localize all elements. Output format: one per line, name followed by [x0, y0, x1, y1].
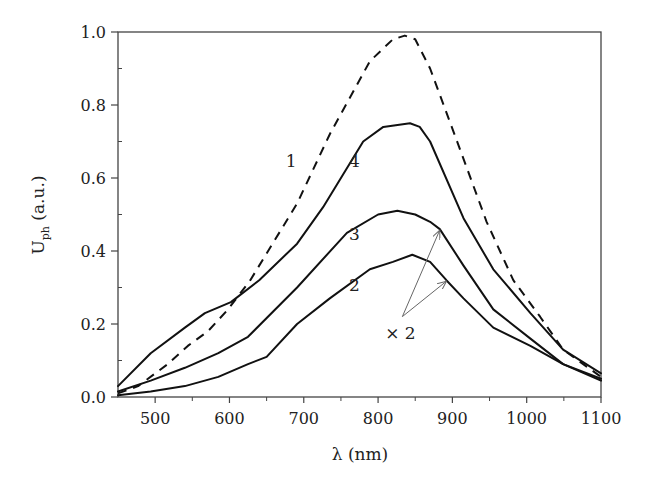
x-tick-label: 1100 — [581, 409, 622, 428]
x-tick-label: 800 — [363, 409, 394, 428]
y-tick-label: 0.8 — [81, 96, 106, 115]
curve-label-4: 4 — [349, 151, 360, 171]
y-tick-label: 0.6 — [81, 169, 106, 188]
x-tick-label: 700 — [288, 409, 319, 428]
curve-label-3: 3 — [349, 224, 360, 244]
chart: 500600700800900100011000.00.20.40.60.81.… — [0, 0, 656, 493]
x-tick-label: 900 — [437, 409, 468, 428]
plot-area-border — [118, 32, 601, 397]
y-tick-label: 0.2 — [81, 315, 106, 334]
x-tick-label: 500 — [140, 409, 171, 428]
y-tick-label: 0.0 — [81, 388, 106, 407]
annotation-arrow — [402, 230, 439, 317]
annotation-arrow — [402, 281, 446, 316]
curve-label-2: 2 — [349, 275, 360, 295]
y-axis-label: Uph (a.u.) — [28, 175, 52, 254]
scale-annotation: × 2 — [385, 323, 415, 343]
plot-frame — [118, 32, 601, 397]
y-tick-label: 0.4 — [81, 242, 106, 261]
x-tick-label: 600 — [214, 409, 245, 428]
y-tick-label: 1.0 — [81, 23, 106, 42]
data-series — [118, 36, 601, 396]
x-tick-label: 1000 — [506, 409, 547, 428]
x-axis-label: λ (nm) — [332, 444, 389, 464]
curve-label-1: 1 — [286, 151, 297, 171]
series-curve-1 — [118, 36, 601, 394]
